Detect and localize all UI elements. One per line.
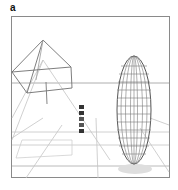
- scene-frame: [12, 17, 170, 178]
- icon-5: [79, 129, 84, 133]
- perspective-grid: [12, 60, 169, 178]
- wireframe-scene: [0, 0, 178, 190]
- icon-column: [79, 105, 84, 133]
- icon-1: [79, 105, 84, 109]
- icon-2: [79, 111, 84, 115]
- icon-4: [79, 123, 84, 127]
- pyramid-wireframe: [12, 40, 72, 104]
- ellipsoid-shadow: [118, 164, 152, 174]
- ellipsoid-wireframe: [117, 56, 152, 174]
- icon-3: [79, 117, 84, 121]
